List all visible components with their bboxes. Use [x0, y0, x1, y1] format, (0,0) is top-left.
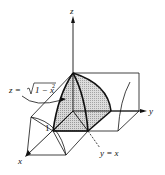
x-arrow-icon — [25, 150, 31, 157]
z-axis-label: z — [69, 6, 74, 16]
diagram-canvas: z y x 1 y = x z = 1 − x 2 — [0, 0, 165, 175]
plane-equation-label: y = x — [99, 148, 119, 158]
y-axis-label: y — [148, 106, 153, 116]
z-arrow-icon — [71, 16, 75, 23]
surface-equation-label: z = 1 − x 2 — [8, 83, 56, 95]
surface-leader-line — [22, 96, 62, 103]
y-arrow-icon — [140, 109, 147, 113]
tick-one-label: 1 — [45, 123, 50, 133]
region-diagram: z y x 1 y = x z = 1 − x 2 — [0, 0, 165, 175]
surface-eq-lhs: z = — [8, 85, 21, 95]
plane-leader-line — [88, 131, 100, 148]
surface-eq-exponent: 2 — [52, 83, 55, 89]
x-axis-label: x — [17, 156, 22, 166]
